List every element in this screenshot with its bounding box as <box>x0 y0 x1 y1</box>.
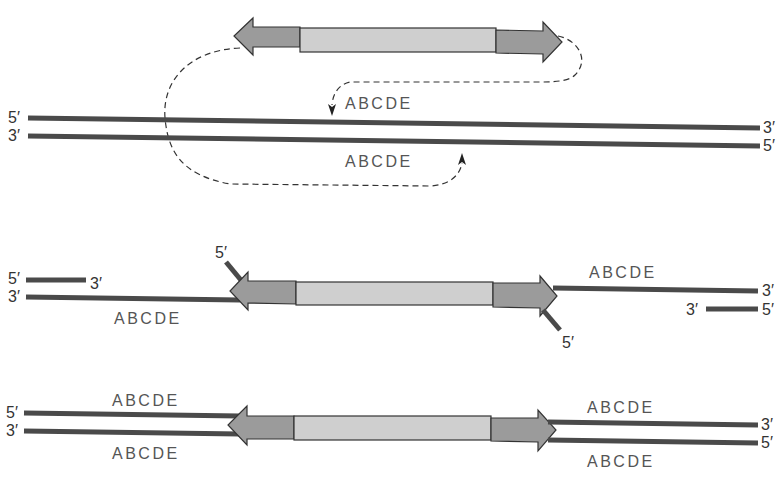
strand-end-label: 3′ <box>763 119 775 136</box>
strand-end-label: 5′ <box>762 301 774 318</box>
strand-end-label: 3′ <box>6 422 18 439</box>
transposon-body <box>300 28 496 52</box>
right-inverted-repeat <box>496 22 562 62</box>
right-top-strand <box>553 288 758 291</box>
panel-2: 5′ 3′ 3′ ABCDE 5′ 5′ ABCDE 3′ 3′ 5′ <box>8 244 774 351</box>
strand-end-label: 5′ <box>761 434 773 451</box>
transposon-body <box>296 282 493 305</box>
right-inverted-repeat <box>493 276 557 316</box>
strand-end-label: 5′ <box>6 404 18 421</box>
left-bottom-strand <box>26 297 240 300</box>
strand-end-label: 3′ <box>8 127 20 144</box>
left-bottom-strand <box>24 431 240 434</box>
target-sequence: ABCDE <box>587 399 655 416</box>
strand-end-label: 5′ <box>215 244 227 261</box>
transposon-body <box>294 416 491 440</box>
strand-end-label: 5′ <box>763 137 775 154</box>
target-dna-bottom-strand <box>28 136 760 146</box>
insertion-path-top <box>165 48 462 186</box>
right-bottom-strand <box>548 440 758 443</box>
left-inverted-repeat <box>228 406 294 445</box>
transposition-diagram: 5′ 3′ 3′ 5′ ABCDE ABCDE 5′ 3′ 3′ ABCDE 5… <box>0 0 783 478</box>
arrowhead-down-icon <box>328 104 336 116</box>
strand-end-label: 3′ <box>686 301 698 318</box>
strand-end-label: 3′ <box>762 282 774 299</box>
right-top-strand <box>548 422 758 425</box>
strand-end-label: 5′ <box>8 270 20 287</box>
transposon-element <box>230 272 557 316</box>
target-sequence: ABCDE <box>114 310 182 327</box>
target-sequence: ABCDE <box>587 453 655 470</box>
target-sequence-top: ABCDE <box>345 95 413 112</box>
strand-end-label: 3′ <box>8 288 20 305</box>
target-dna-top-strand <box>28 118 760 128</box>
target-sequence-bottom: ABCDE <box>345 153 413 170</box>
panel-3: 5′ 3′ ABCDE ABCDE ABCDE ABCDE 3′ 5′ <box>6 392 773 470</box>
left-inverted-repeat <box>234 18 300 55</box>
strand-end-label: 5′ <box>8 109 20 126</box>
target-sequence: ABCDE <box>112 392 180 409</box>
strand-end-label: 3′ <box>761 416 773 433</box>
right-inverted-repeat <box>491 410 556 451</box>
transposon-element <box>234 18 562 62</box>
target-sequence: ABCDE <box>112 445 180 462</box>
left-top-strand <box>24 413 240 416</box>
strand-end-label: 5′ <box>562 334 574 351</box>
transposon-right-tail <box>543 310 560 330</box>
target-sequence: ABCDE <box>589 264 657 281</box>
strand-end-label: 3′ <box>90 275 102 292</box>
panel-1: 5′ 3′ 3′ 5′ ABCDE ABCDE <box>8 18 775 186</box>
transposon-element <box>228 406 556 451</box>
